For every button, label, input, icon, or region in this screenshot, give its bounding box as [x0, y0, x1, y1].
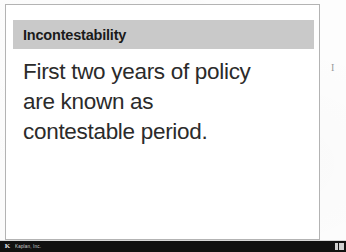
scanned-page: Incontestability First two years of poli… — [0, 0, 346, 252]
slide-card: Incontestability First two years of poli… — [5, 4, 320, 240]
slide-body: First two years of policy are known as c… — [23, 57, 313, 147]
window-controls-icon[interactable] — [335, 243, 344, 250]
app-bar-title-text: Kaplan, Inc. — [15, 244, 41, 250]
application-title-bar: K Kaplan, Inc. — [0, 241, 346, 252]
slide-title-band: Incontestability — [13, 20, 314, 49]
slide-body-line-3: contestable period. — [23, 117, 313, 147]
kaplan-logo-icon: K — [2, 242, 13, 251]
margin-stray-mark: I — [331, 62, 334, 73]
slide-body-line-2: are known as — [23, 87, 313, 117]
slide-body-line-1: First two years of policy — [23, 57, 313, 87]
slide-title: Incontestability — [23, 27, 126, 43]
